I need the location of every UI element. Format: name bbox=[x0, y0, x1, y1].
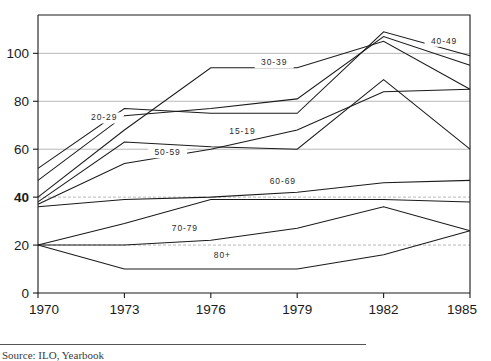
footer-divider bbox=[0, 344, 366, 345]
x-axis-tick-labels: 197019731976197919821985 bbox=[29, 302, 477, 317]
x-tick-label-1982: 1982 bbox=[369, 302, 399, 317]
series-line-80+ bbox=[38, 207, 470, 245]
series-line-70-79 bbox=[38, 200, 470, 246]
x-tick-label-1976: 1976 bbox=[196, 302, 226, 317]
y-tick-label-0: 0 bbox=[21, 286, 29, 301]
series-line-50-59 bbox=[38, 80, 470, 202]
series-lines bbox=[38, 32, 470, 269]
series-label-70-79: 70-79 bbox=[172, 223, 198, 233]
axis-frame bbox=[38, 15, 470, 293]
series-label-20-29: 20-29 bbox=[91, 112, 117, 122]
series-line-80+-lower bbox=[38, 231, 470, 269]
x-tick-label-1979: 1979 bbox=[282, 302, 312, 317]
series-line-60-69 bbox=[38, 180, 470, 206]
series-label-40-49: 40-49 bbox=[431, 36, 457, 46]
y-axis-tick-labels: 020406080100 bbox=[6, 46, 29, 301]
y-tick-label-80: 80 bbox=[14, 94, 29, 109]
x-tick-label-1985: 1985 bbox=[447, 302, 477, 317]
series-label-30-39: 30-39 bbox=[261, 57, 287, 67]
footer-caption: Source: ILO, Yearbook bbox=[2, 349, 104, 361]
grid-lines bbox=[38, 53, 470, 245]
series-label-60-69: 60-69 bbox=[270, 176, 296, 186]
x-tick-label-1970: 1970 bbox=[29, 302, 59, 317]
series-label-15-19: 15-19 bbox=[229, 126, 255, 136]
x-tick-label-1973: 1973 bbox=[109, 302, 139, 317]
series-line-20-29 bbox=[38, 37, 470, 181]
y-tick-label-40: 40 bbox=[14, 190, 29, 205]
y-tick-label-60: 60 bbox=[14, 142, 29, 157]
axis-spines bbox=[38, 15, 470, 293]
y-tick-label-100: 100 bbox=[6, 46, 29, 61]
series-label-50-59: 50-59 bbox=[154, 147, 180, 157]
chart-axes bbox=[33, 15, 470, 298]
y-tick-label-20: 20 bbox=[14, 238, 29, 253]
series-label-80+: 80+ bbox=[214, 250, 231, 260]
